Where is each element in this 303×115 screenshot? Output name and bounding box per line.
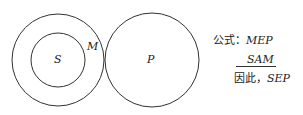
label-p: P bbox=[147, 54, 154, 65]
conclusion-prefix: 因此， bbox=[234, 72, 267, 85]
label-m: M bbox=[87, 41, 98, 52]
conclusion: SEP bbox=[267, 72, 290, 85]
minor-premise: SAM bbox=[247, 53, 274, 66]
label-s: S bbox=[54, 54, 62, 65]
conclusion-line: 因此，SEP bbox=[234, 73, 290, 84]
major-premise-line: 公式：MEP bbox=[213, 35, 273, 46]
major-prefix: 公式： bbox=[213, 34, 246, 47]
conclusion-rule bbox=[236, 66, 276, 67]
major-premise: MEP bbox=[246, 34, 273, 47]
minor-premise-line: SAM bbox=[247, 54, 274, 65]
